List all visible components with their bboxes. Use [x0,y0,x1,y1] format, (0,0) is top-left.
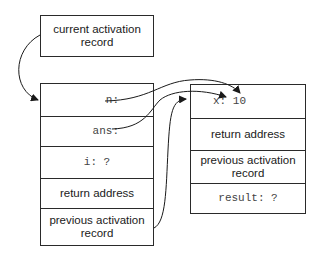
arrow-current-to-caller [19,35,40,100]
caller-ans-label: ans: [93,125,119,138]
callee-activation-record: x: 10 return address previous activation… [190,84,306,214]
caller-prev-ar-line2: record [81,227,114,240]
caller-prev-ar-line1: previous activation [49,214,144,227]
callee-result-label: result: ? [218,192,277,205]
caller-activation-record: n: ans: i: ? return address previous act… [40,83,154,246]
current-activation-record-line1: current activation [53,23,141,36]
callee-prev-ar-line1: previous activation [200,154,295,167]
callee-x-label: x: 10 [213,95,246,108]
caller-row-ans: ans: [41,116,153,146]
caller-row-i: i: ? [41,146,153,178]
callee-row-previous-activation-record: previous activation record [191,150,305,183]
arrow-prev-ar-to-callee [154,99,186,228]
caller-row-n: n: [41,84,153,116]
callee-row-result: result: ? [191,183,305,213]
caller-row-return-address: return address [41,178,153,208]
current-activation-record-label: current activation record [41,16,153,56]
current-activation-record-line2: record [81,36,114,49]
callee-row-return-address: return address [191,118,305,150]
callee-prev-ar-line2: record [232,167,265,180]
caller-i-label: i: ? [84,156,110,169]
caller-return-address-label: return address [60,187,134,200]
caller-n-label: n: [106,94,119,107]
caller-row-previous-activation-record: previous activation record [41,208,153,245]
callee-return-address-label: return address [211,128,285,141]
callee-row-x: x: 10 [191,85,305,118]
current-activation-record-box: current activation record [40,15,154,57]
